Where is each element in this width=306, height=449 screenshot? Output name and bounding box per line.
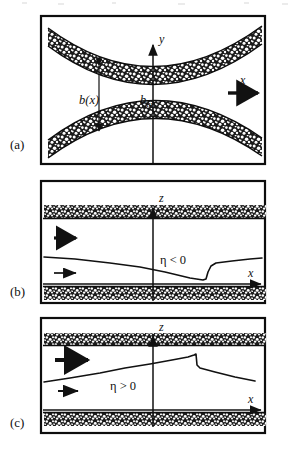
panel-c: z x η > 0 (c) — [10, 318, 266, 433]
gap-minimum-label: bm — [140, 93, 153, 109]
figure-svg: y b(x) bm x (a) — [0, 0, 306, 449]
panel-a: y b(x) bm x (a) — [10, 16, 268, 167]
gap-minimum-dimension: bm — [140, 93, 153, 109]
panel-c-lower-wall — [43, 413, 266, 427]
panel-a-y-axis: y — [153, 32, 165, 163]
panel-b-flow-arrows — [54, 238, 76, 273]
x-axis-label: x — [247, 266, 254, 280]
x-axis-label: x — [239, 73, 246, 87]
panel-b-upper-wall — [43, 205, 266, 219]
scan-artifacts — [22, 2, 288, 5]
panel-c-label: (c) — [10, 415, 24, 430]
eta-positive-label: η > 0 — [110, 379, 136, 393]
panel-a-x-arrow: x — [228, 73, 258, 93]
figure-container: y b(x) bm x (a) — [0, 0, 306, 449]
panel-b-label: (b) — [10, 284, 25, 299]
x-axis-label: x — [247, 392, 254, 406]
gap-width-label: b(x) — [79, 93, 99, 107]
panel-c-x-axis: x — [43, 392, 261, 410]
panel-a-label: (a) — [10, 137, 24, 152]
panel-b: z x η < 0 (b) — [10, 181, 266, 303]
panel-b-lower-wall — [43, 287, 266, 301]
eta-negative-label: η < 0 — [160, 253, 186, 267]
y-axis-label: y — [158, 32, 165, 46]
z-axis-label: z — [158, 191, 164, 205]
z-axis-label: z — [158, 320, 164, 334]
panel-c-upper-wall — [43, 333, 266, 346]
